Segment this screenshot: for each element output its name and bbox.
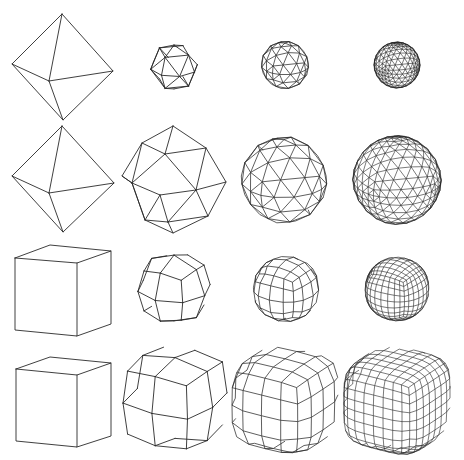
- subdivision-figure: [0, 0, 464, 460]
- figure-canvas: [0, 0, 464, 460]
